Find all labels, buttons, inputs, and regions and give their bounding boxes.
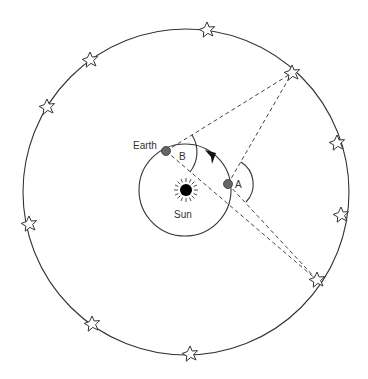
sight-lines — [166, 73, 317, 280]
star-icon — [329, 135, 344, 150]
star-icon — [182, 346, 197, 361]
angle-a-arc — [241, 162, 253, 202]
sun-label: Sun — [174, 209, 192, 220]
orbit-direction-arrow-icon — [205, 150, 216, 164]
star-icon — [21, 216, 36, 231]
earth-position-b — [162, 147, 171, 156]
angle-a-label: A — [235, 179, 242, 190]
angle-b-arc — [190, 135, 197, 172]
star-icon — [199, 22, 214, 37]
sight-line-earth-to-upper-star — [166, 73, 292, 151]
star-icon — [84, 316, 99, 331]
star-icon — [39, 99, 54, 114]
angle-b-label: B — [179, 151, 186, 162]
sun-icon — [174, 178, 198, 202]
sight-line-a-to-lower-star — [228, 184, 317, 280]
parallax-diagram: Earth Sun B A — [0, 0, 368, 379]
star-icon — [333, 207, 348, 222]
earth-label: Earth — [133, 140, 157, 151]
sight-line-a-to-upper-star — [228, 73, 292, 184]
earth-position-a — [224, 180, 233, 189]
star-icon-target-upper — [284, 65, 299, 80]
